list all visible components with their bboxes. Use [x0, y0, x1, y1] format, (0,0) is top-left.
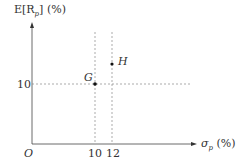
x-axis-arrow-icon: [191, 142, 197, 146]
x-axis-label-main: σ: [201, 137, 209, 150]
point-g: [93, 82, 97, 86]
point-h: [110, 62, 113, 65]
x-tick-10: 10: [88, 148, 102, 159]
origin-label: O: [24, 148, 33, 159]
y-axis-arrow-icon: [30, 22, 34, 28]
x-tick-12: 12: [106, 148, 120, 159]
x-axis-label-tail: (%): [213, 137, 236, 150]
x-axis-label: σp (%): [201, 138, 236, 152]
y-axis-label-main: E[R: [14, 3, 35, 16]
point-h-label: H: [118, 56, 128, 67]
point-g-label: G: [84, 72, 93, 83]
y-axis-label: E[Rp] (%): [14, 4, 66, 18]
y-axis-label-tail: ] (%): [39, 3, 66, 16]
y-tick-10: 10: [17, 79, 31, 90]
